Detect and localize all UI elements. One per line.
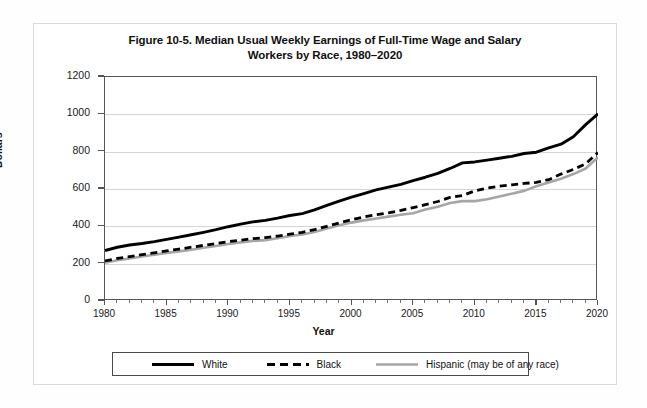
x-tick-label-2005: 2005 <box>392 308 432 319</box>
legend-item-hispanic[interactable]: Hispanic (may be of any race) <box>375 359 559 370</box>
figure-title-line-1: Figure 10-5. Median Usual Weekly Earning… <box>60 33 590 48</box>
legend-label: Hispanic (may be of any race) <box>426 359 559 370</box>
legend-swatch-black-icon <box>266 359 310 370</box>
legend-item-black[interactable]: Black <box>266 359 341 370</box>
legend-item-white[interactable]: White <box>151 359 228 370</box>
legend-label: White <box>202 359 228 370</box>
x-tick-label-1995: 1995 <box>269 308 309 319</box>
x-tick-label-2015: 2015 <box>515 308 555 319</box>
y-tick-label-0: 0 <box>50 293 90 305</box>
figure-title-line-2: Workers by Race, 1980–2020 <box>60 48 590 63</box>
plot-area <box>104 76 597 300</box>
series-line-black <box>105 153 598 261</box>
y-tick-label-1200: 1200 <box>50 69 90 81</box>
chart-legend: WhiteBlackHispanic (may be of any race) <box>112 352 529 376</box>
x-tick-label-2020: 2020 <box>577 308 617 319</box>
y-tick-label-400: 400 <box>50 218 90 230</box>
y-tick-label-800: 800 <box>50 144 90 156</box>
figure-title: Figure 10-5. Median Usual Weekly Earning… <box>60 33 590 63</box>
x-tick-label-1990: 1990 <box>207 308 247 319</box>
y-tick-label-600: 600 <box>50 181 90 193</box>
x-tick-label-2010: 2010 <box>454 308 494 319</box>
x-tick-label-1985: 1985 <box>146 308 186 319</box>
legend-label: Black <box>317 359 341 370</box>
x-tick-label-1980: 1980 <box>84 308 124 319</box>
series-line-hispanic <box>105 157 598 262</box>
y-tick-label-1000: 1000 <box>50 106 90 118</box>
legend-swatch-white-icon <box>151 359 195 370</box>
y-axis-label: Dollars <box>0 132 4 168</box>
chart-lines <box>105 77 598 301</box>
y-tick-label-200: 200 <box>50 256 90 268</box>
x-axis-label: Year <box>0 325 647 337</box>
x-tick-label-2000: 2000 <box>331 308 371 319</box>
legend-swatch-hispanic-icon <box>375 359 419 370</box>
